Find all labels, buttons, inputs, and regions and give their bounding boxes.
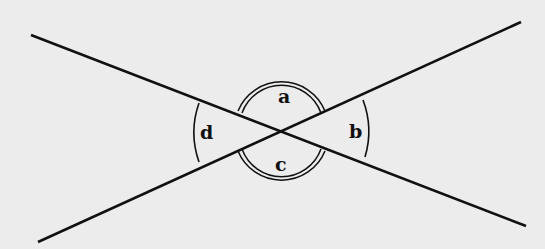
angle-label-a: a [278,85,290,107]
angle-label-d: d [200,121,213,143]
background [0,0,545,249]
angle-label-c: c [275,153,287,175]
angle-label-b: b [349,120,362,142]
intersecting-lines-diagram: a b c d [0,0,545,249]
